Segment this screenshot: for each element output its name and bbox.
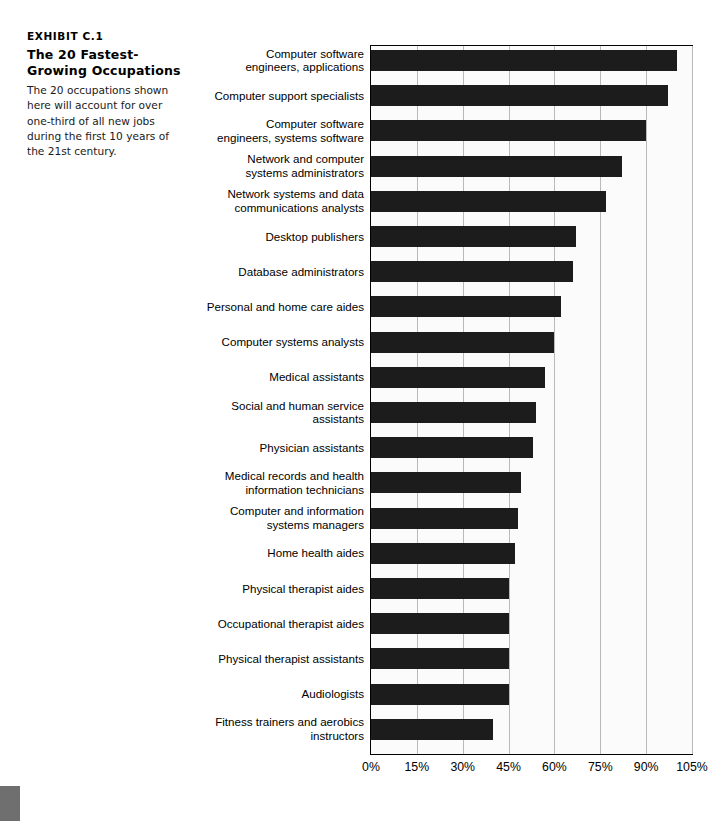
bar: [371, 191, 606, 212]
bar: [371, 85, 668, 106]
gridline: [692, 46, 693, 754]
category-label: Personal and home care aides: [196, 300, 364, 314]
bar: [371, 332, 554, 353]
bar: [371, 543, 515, 564]
bar: [371, 402, 536, 423]
bar: [371, 719, 493, 740]
bar: [371, 261, 573, 282]
category-label: Physician assistants: [196, 441, 364, 455]
bar-series: [371, 46, 692, 754]
bar: [371, 367, 545, 388]
category-label: Audiologists: [196, 687, 364, 701]
bar-chart-figure: Computer software engineers, application…: [0, 0, 723, 800]
bar: [371, 226, 576, 247]
category-label: Physical therapist aides: [196, 582, 364, 596]
category-label: Network systems and data communications …: [196, 187, 364, 215]
value-tick-label: 0%: [362, 760, 380, 774]
page-edge-mark: [0, 786, 20, 821]
category-label: Desktop publishers: [196, 230, 364, 244]
bar: [371, 472, 521, 493]
bar: [371, 613, 509, 634]
bar: [371, 508, 518, 529]
category-label: Home health aides: [196, 546, 364, 560]
category-label: Computer systems analysts: [196, 335, 364, 349]
category-label: Medical assistants: [196, 370, 364, 384]
bar: [371, 684, 509, 705]
value-tick-label: 105%: [676, 760, 707, 774]
bar: [371, 578, 509, 599]
category-label: Computer software engineers, systems sof…: [196, 117, 364, 145]
category-label: Computer support specialists: [196, 89, 364, 103]
category-label: Computer software engineers, application…: [196, 47, 364, 75]
value-tick-label: 15%: [405, 760, 430, 774]
bar: [371, 437, 533, 458]
value-tick-label: 30%: [450, 760, 475, 774]
category-label: Network and computer systems administrat…: [196, 152, 364, 180]
bar: [371, 648, 509, 669]
category-label: Social and human service assistants: [196, 399, 364, 427]
category-label: Fitness trainers and aerobics instructor…: [196, 715, 364, 743]
category-label: Database administrators: [196, 265, 364, 279]
bar: [371, 120, 646, 141]
bar: [371, 296, 561, 317]
value-tick-label: 60%: [542, 760, 567, 774]
value-tick-label: 75%: [588, 760, 613, 774]
plot-area: [370, 45, 693, 755]
category-label: Physical therapist assistants: [196, 652, 364, 666]
value-tick-label: 90%: [634, 760, 659, 774]
bar: [371, 50, 677, 71]
value-tick-label: 45%: [496, 760, 521, 774]
category-label: Computer and information systems manager…: [196, 504, 364, 532]
category-label: Medical records and health information t…: [196, 469, 364, 497]
category-label: Occupational therapist aides: [196, 617, 364, 631]
value-axis: 0%15%30%45%60%75%90%105%: [370, 760, 693, 780]
bar: [371, 156, 622, 177]
